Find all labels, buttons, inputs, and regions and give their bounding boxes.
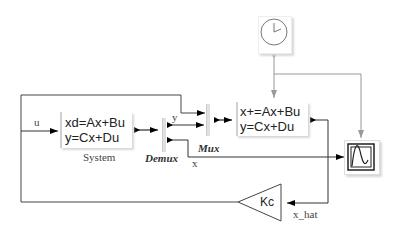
system-label: System (83, 151, 115, 163)
clock-block[interactable] (258, 16, 292, 54)
observer-equation-1: x+=Ax+Bu (240, 104, 300, 119)
demux-label: Demux (145, 152, 178, 164)
signal-label-x-hat: x_hat (293, 208, 317, 220)
observer-equation-2: y=Cx+Du (240, 119, 294, 134)
signal-label-u: u (34, 116, 40, 128)
gain-label: Kc (260, 195, 274, 210)
system-equation-1: xd=Ax+Bu (65, 115, 125, 130)
observer-block[interactable]: x+=Ax+Bu y=Cx+Du (236, 102, 308, 136)
mux-block[interactable] (206, 104, 210, 136)
scope-icon (345, 141, 379, 174)
signal-x (167, 140, 344, 157)
mux-label: Mux (198, 142, 219, 154)
signal-label-y: y (172, 111, 178, 123)
clock-icon (259, 17, 291, 53)
scope-block[interactable] (344, 140, 380, 175)
signal-label-x: x (192, 157, 198, 169)
demux-block[interactable] (162, 118, 166, 152)
system-block[interactable]: xd=Ax+Bu y=Cx+Du (60, 112, 132, 148)
system-equation-2: y=Cx+Du (65, 130, 119, 145)
